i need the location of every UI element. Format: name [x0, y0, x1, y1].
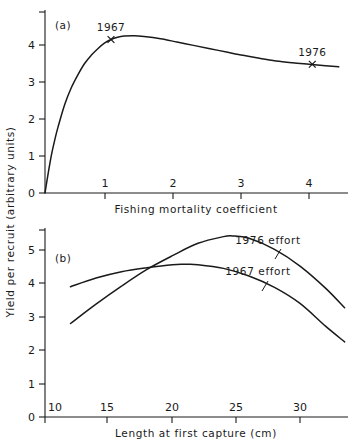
- panel-b-y-tick-3: 3: [28, 311, 35, 324]
- panel-b-x-tick-20: 20: [165, 401, 179, 414]
- panel-b-y-ticks: [39, 230, 45, 417]
- panel-b-x-tick-10: 10: [48, 401, 62, 414]
- panel-a-x-tick-3: 3: [238, 177, 245, 190]
- panel-a-y-tick-2: 2: [28, 113, 35, 126]
- panel-b-label-1967-effort: 1967 effort: [225, 265, 290, 277]
- panel-b-y-tick-4: 4: [28, 277, 35, 290]
- panel-a-y-ticks: [39, 12, 45, 193]
- panel-b-y-tick-2: 2: [28, 344, 35, 357]
- panel-a: (a) 0 1 2 3 4: [28, 10, 348, 215]
- panel-b: (b) 0 1 2 3 4 5: [28, 228, 348, 439]
- panel-b-y-tick-5: 5: [28, 244, 35, 257]
- panel-a-marker-1967: [108, 36, 115, 43]
- panel-b-label-1976-effort: 1976 effort: [235, 234, 300, 246]
- panel-a-x-axis-title: Fishing mortality coefficient: [114, 203, 277, 215]
- panel-a-x-tick-2: 2: [170, 177, 177, 190]
- panel-b-x-tick-15: 15: [100, 401, 114, 414]
- shared-y-axis-label: Yield per recruit (arbitrary units): [4, 127, 16, 319]
- panel-b-x-tick-25: 25: [229, 401, 243, 414]
- panel-a-y-tick-0: 0: [28, 187, 35, 200]
- panel-a-label-1976: 1976: [298, 46, 326, 58]
- panel-b-curve-1967-effort: [71, 264, 345, 342]
- panel-a-y-tick-1: 1: [28, 150, 35, 163]
- panel-a-yield-curve: [45, 36, 339, 193]
- panel-a-y-tick-4: 4: [28, 39, 35, 52]
- panel-b-x-axis-title: Length at first capture (cm): [115, 427, 277, 439]
- panel-a-x-tick-1: 1: [102, 177, 109, 190]
- panel-b-x-ticks: [45, 417, 300, 423]
- panel-a-x-tick-4: 4: [306, 177, 313, 190]
- panel-a-label-1967: 1967: [97, 21, 125, 33]
- panel-a-tag: (a): [55, 19, 71, 31]
- panel-a-y-tick-3: 3: [28, 76, 35, 89]
- panel-b-tag: (b): [55, 252, 71, 264]
- panel-b-curve-1976-effort: [71, 236, 345, 324]
- panel-a-x-ticks: [105, 193, 309, 199]
- figure-svg: Yield per recruit (arbitrary units) (a) …: [0, 0, 352, 443]
- panel-b-y-tick-1: 1: [28, 378, 35, 391]
- panel-b-x-tick-30: 30: [293, 401, 307, 414]
- figure-container: Yield per recruit (arbitrary units) (a) …: [0, 0, 352, 443]
- panel-b-y-tick-0: 0: [28, 411, 35, 424]
